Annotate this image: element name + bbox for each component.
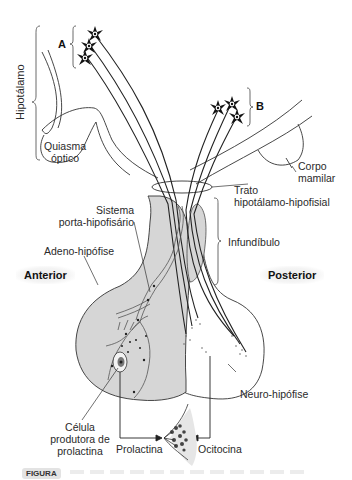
portal-system-label: Sistema porta-hipofisário	[54, 204, 134, 228]
pituitary-diagram	[0, 0, 352, 480]
mammillary-label: Corpo mamilar	[298, 160, 335, 184]
tract-line1: Trato	[234, 184, 330, 196]
group-a-label: A	[58, 38, 66, 50]
posterior-label: Posterior	[260, 266, 324, 284]
cell-line2: produtora de	[38, 433, 122, 445]
adenohypophysis-label: Adeno-hipófise	[44, 245, 114, 257]
prolactin-cell-label: Célula produtora de prolactina	[38, 421, 122, 457]
figure-caption-tag: FIGURA	[22, 468, 61, 479]
hypothalamus-label: Hipotálamo	[14, 64, 26, 120]
anterior-label: Anterior	[16, 266, 75, 284]
group-b-brace	[247, 88, 253, 126]
figure-caption-text	[70, 470, 310, 474]
neurons-group-b	[210, 96, 245, 124]
neurons-group-a	[77, 26, 103, 65]
mammary-gland	[164, 404, 197, 466]
portal-line2: porta-hipofisário	[54, 216, 134, 228]
group-b-label: B	[256, 100, 264, 112]
infundibulum-brace	[214, 198, 221, 285]
tract-line2: hipotálamo-hipofisial	[234, 196, 330, 208]
neurohypophysis-label: Neuro-hipófise	[240, 388, 308, 400]
mammillary-line1: Corpo	[298, 160, 335, 172]
oxytocin-label: Ocitocina	[198, 443, 242, 455]
mammillary-outline	[190, 100, 312, 184]
group-a-brace	[70, 26, 76, 68]
hypothalamus-brace	[32, 26, 40, 160]
tract-label: Trato hipotálamo-hipofisial	[234, 184, 330, 208]
infundibulum-label: Infundíbulo	[228, 236, 280, 248]
cell-line3: prolactina	[38, 445, 122, 457]
portal-line1: Sistema	[54, 204, 134, 216]
prolactin-cell	[113, 352, 127, 372]
optic-chiasm-label: Quiasma óptico	[40, 140, 90, 164]
mammillary-line2: mamilar	[298, 172, 335, 184]
optic-chiasm-line1: Quiasma	[40, 140, 90, 152]
optic-chiasm-line2: óptico	[40, 152, 90, 164]
cell-line1: Célula	[38, 421, 122, 433]
prolactin-label: Prolactina	[116, 443, 163, 455]
